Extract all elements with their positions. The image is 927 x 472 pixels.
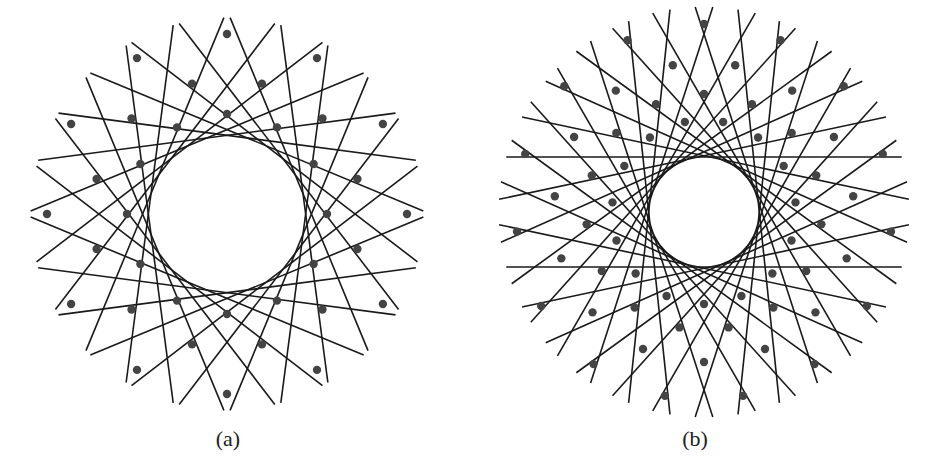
line-arrangement-b [463, 0, 927, 430]
caption-b: (b) [665, 426, 725, 452]
line-arrangement-a [0, 0, 463, 430]
lines [31, 18, 424, 411]
caption-a: (a) [198, 426, 258, 452]
panel-b [463, 0, 927, 430]
vertices [513, 20, 895, 400]
panel-a [0, 0, 463, 430]
lines [499, 7, 909, 417]
